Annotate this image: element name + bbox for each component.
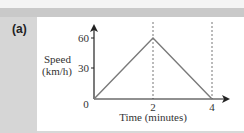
speed-time-graph: 60 30 0 2 4 Speed (km/h) Time (minutes)	[0, 0, 244, 133]
origin-label: 0	[83, 98, 89, 110]
y-tick-label-60: 60	[78, 32, 90, 44]
y-axis-label-line2: (km/h)	[42, 65, 72, 78]
x-axis-label: Time (minutes)	[119, 111, 187, 124]
y-axis-label-line1: Speed	[44, 53, 71, 65]
x-tick-label-4: 4	[209, 101, 215, 113]
y-tick-label-30: 30	[78, 62, 90, 74]
